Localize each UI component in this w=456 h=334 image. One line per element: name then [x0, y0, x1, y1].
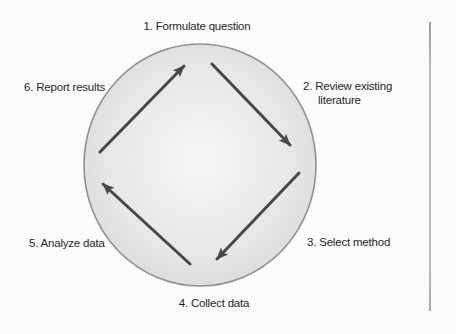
step-label-formulate-question: 1. Formulate question	[143, 19, 250, 33]
step-label-review-literature: 2. Review existing literature	[303, 79, 392, 107]
step-label-review-literature-line2: literature	[318, 93, 392, 107]
step-label-analyze-data: 5. Analyze data	[29, 236, 105, 250]
step-label-select-method: 3. Select method	[307, 235, 390, 249]
cycle-graphic	[0, 0, 456, 334]
step-label-collect-data: 4. Collect data	[179, 296, 250, 310]
step-label-review-literature-line1: 2. Review existing	[303, 80, 392, 92]
page-rule-line	[429, 22, 431, 311]
research-cycle-figure: 1. Formulate question 2. Review existing…	[0, 0, 456, 334]
step-label-report-results: 6. Report results	[24, 80, 105, 94]
cycle-circle	[84, 44, 316, 286]
